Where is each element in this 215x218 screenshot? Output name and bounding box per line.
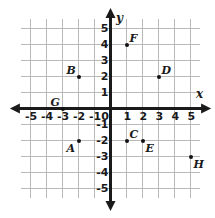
point-label-c: C xyxy=(130,129,139,140)
x-axis-arrow-left xyxy=(10,104,20,114)
point-dot-b xyxy=(77,75,81,79)
y-tick-label-1: 1 xyxy=(101,87,109,98)
point-label-b: B xyxy=(67,65,76,76)
coordinate-plane: -5-4-3-2-101234554321-1-2-3-4-5 x y ABCD… xyxy=(0,0,215,218)
point-label-a: A xyxy=(67,143,76,154)
x-tick-label--2: -2 xyxy=(73,111,85,122)
point-dot-f xyxy=(125,43,129,47)
point-dot-d xyxy=(157,75,161,79)
x-tick-label--5: -5 xyxy=(25,111,37,122)
x-tick-label-2: 2 xyxy=(140,111,148,122)
point-dot-h xyxy=(189,155,193,159)
point-dot-e xyxy=(141,139,145,143)
y-tick-label-3: 3 xyxy=(101,55,109,66)
y-axis-arrow-down xyxy=(106,201,116,211)
x-axis-label: x xyxy=(196,88,203,100)
x-axis-arrow-right xyxy=(201,104,211,114)
y-tick-label-4: 4 xyxy=(101,39,109,50)
point-label-e: E xyxy=(146,143,154,154)
point-label-d: D xyxy=(162,65,172,76)
point-label-h: H xyxy=(194,159,204,170)
x-tick-label--3: -3 xyxy=(57,111,69,122)
point-dot-c xyxy=(125,139,129,143)
point-dot-a xyxy=(77,139,81,143)
y-tick-label-5: 5 xyxy=(101,23,109,34)
y-tick-label--1: -1 xyxy=(96,119,108,130)
y-tick-label--4: -4 xyxy=(96,167,108,178)
point-label-g: G xyxy=(51,97,60,108)
y-tick-label--3: -3 xyxy=(96,151,108,162)
y-axis-arrow-up xyxy=(106,8,116,18)
x-tick-label-3: 3 xyxy=(156,111,164,122)
point-dot-g xyxy=(61,107,65,111)
y-axis-label: y xyxy=(116,12,123,24)
y-tick-label--5: -5 xyxy=(96,183,108,194)
point-label-f: F xyxy=(130,33,138,44)
x-tick-label-4: 4 xyxy=(172,111,180,122)
x-tick-label-1: 1 xyxy=(124,111,132,122)
y-tick-label-2: 2 xyxy=(101,71,109,82)
x-tick-label--4: -4 xyxy=(41,111,53,122)
y-tick-label--2: -2 xyxy=(96,135,108,146)
x-tick-label-5: 5 xyxy=(188,111,196,122)
